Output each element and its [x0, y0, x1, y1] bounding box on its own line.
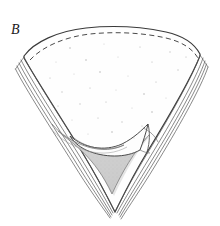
stipple-dot: [103, 43, 104, 44]
stipple-dot: [177, 69, 179, 71]
stipple-dot: [79, 103, 81, 105]
specimen-illustration: [0, 0, 220, 226]
stipple-dot: [71, 119, 72, 120]
stipple-dot: [155, 81, 156, 82]
stipple-dot: [111, 131, 113, 133]
stipple-dot: [115, 89, 116, 90]
stipple-dot: [73, 73, 74, 74]
stipple-dot: [99, 71, 101, 73]
stipple-dot: [127, 75, 128, 76]
stipple-dot: [143, 93, 145, 95]
stipple-dot: [141, 125, 142, 126]
stipple-dot: [165, 97, 166, 98]
stipple-dot: [89, 87, 90, 88]
figure-panel: B: [0, 0, 220, 226]
stipple-dot: [121, 121, 123, 123]
panel-label: B: [11, 22, 20, 37]
stipple-dot: [55, 61, 56, 62]
stipple-dot: [117, 56, 118, 57]
stipple-dot: [169, 51, 171, 53]
stipple-dot: [131, 107, 132, 108]
stipple-dot: [185, 56, 186, 57]
stipple-dot: [139, 46, 140, 47]
stipple-dot: [69, 47, 71, 49]
stipple-dot: [85, 59, 87, 61]
stipple-dot: [57, 105, 58, 106]
stipple-dot: [87, 133, 88, 134]
stipple-dot: [61, 91, 63, 93]
stipple-dot: [133, 137, 134, 138]
stipple-dot: [151, 61, 152, 62]
stipple-dot: [105, 101, 106, 102]
stipple-dot: [97, 117, 98, 118]
stipple-dot: [49, 77, 50, 78]
stipple-dot: [151, 111, 153, 113]
